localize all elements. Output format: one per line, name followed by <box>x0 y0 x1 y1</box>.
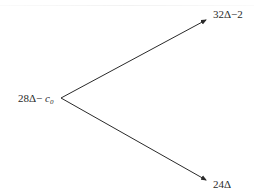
origin-prefix: 28Δ− <box>18 92 45 104</box>
down-branch-arrow <box>61 98 206 180</box>
origin-node-label: 28Δ− c0 <box>18 92 53 108</box>
up-node-label: 32Δ−2 <box>213 8 243 20</box>
down-node-label: 24Δ <box>213 178 231 190</box>
up-branch-arrow <box>61 20 206 98</box>
origin-subscript: 0 <box>50 98 54 106</box>
